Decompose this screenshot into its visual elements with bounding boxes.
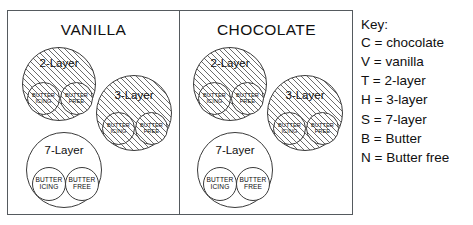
subset-circle-chocolate-7-layer-butter-icing[interactable]: BUTTER ICING (203, 167, 237, 201)
subset-circle-chocolate-2-layer-butter-free[interactable]: BUTTER FREE (231, 82, 264, 115)
subset-circle-chocolate-3-layer-butter-icing[interactable]: BUTTER ICING (273, 112, 306, 145)
set-label-vanilla-3-layer: 3-Layer (97, 89, 171, 101)
subset-line2: FREE (69, 99, 84, 105)
key-entry-butter-free: N = Butter free (361, 148, 471, 167)
subset-circle-vanilla-2-layer-butter-free[interactable]: BUTTER FREE (60, 82, 93, 115)
diagram-outer-frame: VANILLA 2-Layer BUTTER ICING BUTTER FREE… (7, 10, 353, 215)
subset-circle-chocolate-7-layer-butter-free[interactable]: BUTTER FREE (236, 167, 270, 201)
key-entry-2-layer: T = 2-layer (361, 71, 471, 90)
panel-divider (179, 11, 180, 214)
subset-line2: FREE (315, 129, 330, 135)
subset-line2: ICING (110, 129, 126, 135)
set-circle-chocolate-3-layer[interactable]: 3-Layer BUTTER ICING BUTTER FREE (267, 75, 343, 151)
subset-line2: FREE (240, 99, 255, 105)
subset-circle-vanilla-3-layer-butter-icing[interactable]: BUTTER ICING (102, 112, 135, 145)
set-circle-chocolate-2-layer[interactable]: 2-Layer BUTTER ICING BUTTER FREE (193, 47, 267, 121)
set-label-chocolate-2-layer: 2-Layer (194, 57, 266, 69)
set-circle-vanilla-3-layer[interactable]: 3-Layer BUTTER ICING BUTTER FREE (96, 75, 172, 151)
subset-circle-vanilla-7-layer-butter-icing[interactable]: BUTTER ICING (32, 167, 66, 201)
set-label-vanilla-7-layer: 7-Layer (27, 144, 101, 156)
key-legend: Key: C = chocolate V = vanilla T = 2-lay… (361, 17, 471, 167)
subset-circle-chocolate-2-layer-butter-icing[interactable]: BUTTER ICING (198, 82, 231, 115)
set-label-chocolate-3-layer: 3-Layer (268, 89, 342, 101)
subset-line2: FREE (73, 184, 91, 191)
set-label-chocolate-7-layer: 7-Layer (198, 144, 272, 156)
set-circle-vanilla-2-layer[interactable]: 2-Layer BUTTER ICING BUTTER FREE (22, 47, 96, 121)
key-entry-3-layer: H = 3-layer (361, 90, 471, 109)
key-entry-butter: B = Butter (361, 129, 471, 148)
diagram-canvas: VANILLA 2-Layer BUTTER ICING BUTTER FREE… (0, 0, 473, 225)
set-label-vanilla-2-layer: 2-Layer (23, 57, 95, 69)
key-entry-7-layer: S = 7-layer (361, 110, 471, 129)
panel-title-vanilla: VANILLA (8, 21, 179, 39)
set-circle-chocolate-7-layer[interactable]: 7-Layer BUTTER ICING BUTTER FREE (197, 132, 273, 208)
panel-title-chocolate: CHOCOLATE (179, 21, 354, 39)
subset-line2: ICING (40, 184, 59, 191)
key-title: Key: (361, 17, 471, 32)
subset-line2: FREE (244, 184, 262, 191)
subset-line2: ICING (35, 99, 51, 105)
subset-line2: ICING (206, 99, 222, 105)
subset-line2: ICING (281, 129, 297, 135)
subset-circle-vanilla-7-layer-butter-free[interactable]: BUTTER FREE (65, 167, 99, 201)
key-entry-chocolate: C = chocolate (361, 33, 471, 52)
set-circle-vanilla-7-layer[interactable]: 7-Layer BUTTER ICING BUTTER FREE (26, 132, 102, 208)
subset-circle-vanilla-3-layer-butter-free[interactable]: BUTTER FREE (135, 112, 168, 145)
subset-line2: FREE (144, 129, 159, 135)
subset-line2: ICING (211, 184, 230, 191)
key-entry-vanilla: V = vanilla (361, 52, 471, 71)
subset-circle-vanilla-2-layer-butter-icing[interactable]: BUTTER ICING (27, 82, 60, 115)
subset-circle-chocolate-3-layer-butter-free[interactable]: BUTTER FREE (306, 112, 339, 145)
